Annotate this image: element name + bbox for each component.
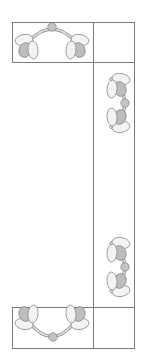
right-arch-motif-upper — [106, 72, 131, 134]
frame — [13, 23, 135, 349]
right-arch-motif-lower — [106, 236, 131, 298]
center-dot-icon — [121, 263, 129, 271]
bottom-right-corner-square — [94, 308, 135, 349]
top-right-corner-square — [94, 23, 135, 63]
top-arch-motif — [14, 23, 90, 60]
center-dot-icon — [121, 99, 129, 107]
center-dot-icon — [48, 23, 56, 31]
right-side-strip — [94, 63, 135, 308]
center-dot-icon — [49, 333, 57, 341]
bottom-arch-motif — [14, 305, 90, 342]
quilt-border-diagram — [0, 0, 148, 363]
